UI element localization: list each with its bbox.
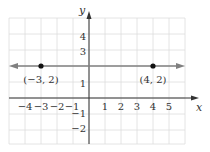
y-tick-label: 1 bbox=[80, 78, 86, 89]
x-tick-labels: −4 −3 −2 −1 1 2 3 4 5 bbox=[18, 101, 173, 112]
x-axis-label: x bbox=[196, 101, 203, 114]
x-tick-label: −4 bbox=[18, 101, 33, 112]
point-neg3-2 bbox=[38, 63, 43, 68]
y-tick-label: −1 bbox=[71, 108, 86, 119]
x-tick-label: 3 bbox=[134, 101, 140, 112]
point-label: (−3, 2) bbox=[23, 74, 58, 85]
y-tick-label: −2 bbox=[71, 123, 86, 134]
y-tick-label: 4 bbox=[80, 31, 86, 42]
point-4-2 bbox=[150, 63, 155, 68]
x-tick-label: −3 bbox=[34, 101, 49, 112]
y-tick-label: 3 bbox=[80, 46, 86, 57]
x-tick-label: 1 bbox=[102, 101, 108, 112]
x-tick-label: 5 bbox=[166, 101, 172, 112]
y-axis-arrow-icon bbox=[87, 11, 92, 19]
left-arrow-icon bbox=[9, 63, 18, 69]
x-tick-label: 4 bbox=[150, 101, 156, 112]
y-tick-labels: 4 3 1 −1 −2 bbox=[71, 31, 86, 134]
right-arrow-icon bbox=[176, 63, 185, 69]
point-label: (4, 2) bbox=[140, 74, 167, 85]
x-tick-label: −2 bbox=[50, 101, 65, 112]
x-tick-label: 2 bbox=[118, 101, 124, 112]
coordinate-plane: x y −4 −3 −2 −1 1 2 3 4 5 4 3 1 −1 −2 (−… bbox=[0, 0, 210, 152]
y-axis-label: y bbox=[78, 4, 86, 17]
x-axis-arrow-icon bbox=[191, 96, 199, 101]
